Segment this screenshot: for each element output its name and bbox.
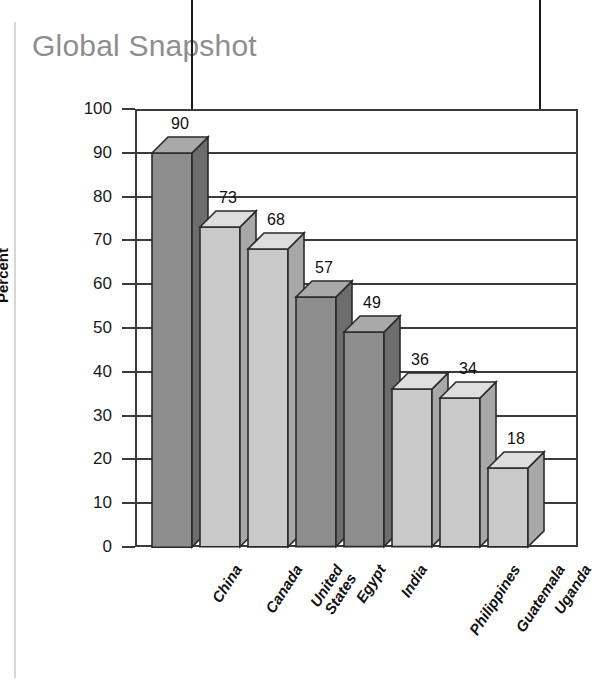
- bar-front-face: [344, 332, 384, 547]
- bar-value-label: 49: [363, 294, 381, 312]
- bar-front-face: [440, 398, 480, 547]
- bar-value-label: 36: [411, 351, 429, 369]
- bar-chart: 0102030405060708090100 Percent 907368574…: [0, 0, 594, 683]
- bar-front-face: [200, 227, 240, 547]
- bar-value-label: 90: [171, 115, 189, 133]
- bar-front-face: [296, 297, 336, 547]
- bar-front-face: [392, 389, 432, 547]
- bar-value-label: 18: [507, 430, 525, 448]
- bar-uganda: [488, 452, 544, 547]
- bar-value-label: 57: [315, 259, 333, 277]
- bar-front-face: [248, 249, 288, 547]
- bar-front-face: [488, 468, 528, 547]
- bar-value-label: 73: [219, 189, 237, 207]
- bar-value-label: 34: [459, 360, 477, 378]
- bar-value-label: 68: [267, 211, 285, 229]
- bar-front-face: [152, 153, 192, 547]
